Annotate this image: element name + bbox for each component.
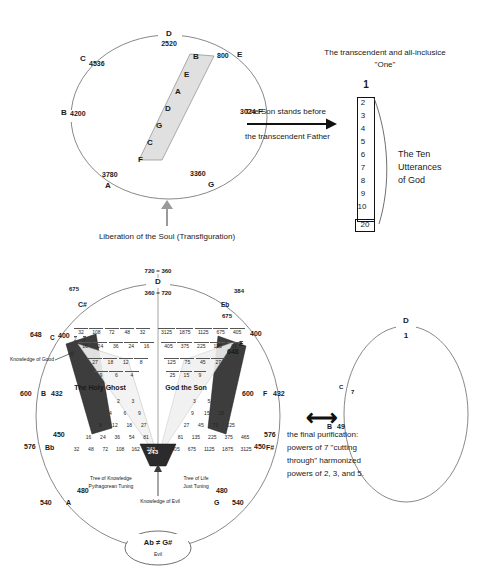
purification-circle: D 1 C 7 B 49 — [330, 318, 480, 508]
utterance-num-3: 3 — [357, 111, 369, 120]
lattice-left-row-4: 9 6 4 — [94, 371, 139, 378]
purification-line-2: powers of 7 "cutting — [287, 444, 357, 453]
utterance-num-10: 10 — [356, 202, 368, 211]
purification-line-1: the final purification: — [287, 431, 358, 440]
utterance-one: 1 — [363, 80, 369, 91]
main-note-B: B — [41, 390, 46, 398]
top-value-A: 3780 — [102, 171, 118, 179]
main-note-Eb: Eb — [221, 301, 229, 308]
lattice-left-int-row-3: 16 24 36 54 81 — [82, 434, 153, 440]
main-outer-A: 540 — [40, 499, 52, 507]
band-note-6: F — [138, 156, 143, 165]
main-note-D: D — [155, 278, 161, 287]
top-value-E: 800 — [217, 52, 229, 60]
main-inner-Eb: 675 — [222, 313, 232, 319]
utterance-num-9: 9 — [357, 189, 369, 198]
top-value-B: 4200 — [70, 110, 86, 118]
transfiguration-circle: D 2520 C 4536 B 4200 3780 A 3360 G 3024 … — [62, 32, 277, 202]
bottom-wedge-value: 243 — [148, 449, 158, 455]
lattice-right-int-row-3: 81 135 225 375 465 — [174, 434, 253, 440]
lattice-right-row-5 — [168, 374, 180, 380]
lattice-left-int-row-0: 2 3 — [112, 398, 139, 404]
main-outer-Eb: 384 — [234, 288, 244, 294]
band-note-1: E — [184, 71, 189, 80]
main-outer-C: 648 — [30, 331, 42, 339]
tree-right-line-2: Just Tuning — [183, 484, 209, 489]
tree-left-line-2: Pythagorean Tuning — [89, 484, 134, 489]
main-circle-svg — [8, 268, 308, 573]
right-note-C: C — [339, 384, 343, 390]
lattice-left-int-row-1: 4 6 9 — [104, 410, 146, 416]
main-inner-Fsharp: 450 — [254, 443, 266, 451]
transition-arrow-shaft — [247, 123, 327, 125]
band-note-5: C — [147, 139, 153, 148]
main-outer-Csharp: 675 — [69, 286, 79, 292]
lattice-right-int-row-2: 27 45 75 125 — [180, 422, 238, 428]
right-value-C: 7 — [351, 389, 354, 395]
top-note-D: D — [166, 30, 172, 39]
main-outer-Fsharp: 576 — [264, 431, 276, 439]
lattice-right-top-row: 3125 1875 1125 675 405 — [158, 328, 245, 335]
utterance-num-20: 20 — [355, 220, 375, 229]
utterances-label-line-2: Utterances — [398, 163, 442, 173]
lattice-left-int-row-2: 8 12 18 27 — [94, 422, 150, 428]
top-note-C: C — [80, 55, 86, 64]
main-note-Fsharp: F# — [266, 444, 274, 452]
top-note-A: A — [105, 182, 111, 191]
tree-right-line-1: Tree of Life — [183, 476, 208, 481]
main-note-C: C — [50, 334, 55, 341]
knowledge-of-evil-label: Knowledge of Evil — [140, 499, 180, 504]
top-value-C: 4536 — [89, 60, 105, 68]
evil-bubble-line-1: Ab ≠ G# — [144, 539, 172, 547]
liberation-caption: Liberation of the Soul (Transfiguration) — [99, 233, 235, 242]
lattice-left-int-row-4: 32 48 72 108 162 243 — [70, 446, 158, 452]
lattice-right-row-3: 125 75 45 27 — [164, 358, 225, 365]
band-note-2: A — [175, 88, 181, 97]
right-circle-svg — [330, 318, 480, 508]
tuning-circle: 720 = 360 D 360 = 720 675 C# 648 C 400 6… — [8, 268, 308, 573]
band-note-0: B — [193, 53, 199, 62]
knowledge-of-good-label: Knowledge of Good — [10, 357, 54, 362]
main-note-Csharp: C# — [78, 301, 87, 309]
utterance-num-7: 7 — [357, 163, 369, 172]
utterances-curve — [373, 97, 395, 225]
god-the-son-label: God the Son — [165, 384, 207, 392]
main-outer-F: 600 — [242, 390, 254, 398]
top-note-G: G — [208, 181, 214, 190]
main-inner-Bb: 450 — [53, 431, 65, 439]
right-value-D: 1 — [404, 332, 408, 341]
purification-line-4: powers of 2, 3, and 5. — [287, 470, 364, 479]
main-inner-F: 432 — [273, 390, 285, 398]
lattice-left-row-2: 16 24 36 24 16 — [78, 342, 154, 349]
liberation-arrow-head — [160, 200, 174, 210]
knowledge-of-good-leader — [54, 350, 76, 362]
main-note-F: F — [263, 390, 267, 398]
evil-bubble-line-2: Evil — [154, 552, 162, 557]
utterance-num-2: 2 — [357, 98, 369, 107]
holy-ghost-label: The Holy Ghost — [74, 384, 126, 392]
top-note-E: E — [237, 51, 242, 60]
tree-left-line-1: Tree of Knowledge — [90, 476, 132, 481]
transition-text-line-2: the transcendent Father — [245, 133, 330, 142]
main-note-G: G — [214, 499, 219, 507]
lattice-right-int-row-4: 405 675 1125 1875 3125 — [168, 446, 255, 452]
transition-arrow-head — [325, 118, 337, 130]
utterances-heading-line-1: The transcendent and all-inclusice — [324, 49, 445, 58]
main-outer-B: 600 — [20, 390, 32, 398]
utterance-num-6: 6 — [357, 150, 369, 159]
lattice-right-int-row-0: 3 5 — [188, 398, 215, 404]
top-value-D: 2520 — [161, 40, 177, 48]
diagram-canvas: D 2520 C 4536 B 4200 3780 A 3360 G 3024 … — [0, 0, 485, 579]
utterances-label-line-1: The Ten — [398, 150, 430, 160]
top-note-B: B — [61, 109, 67, 118]
main-inner-E: 648 — [227, 348, 239, 356]
main-eq-lower: 360 = 720 — [145, 290, 172, 296]
utterance-num-4: 4 — [357, 124, 369, 133]
lattice-left-top-row: 32 108 72 48 32 — [74, 328, 150, 335]
lattice-right-row-2: 405 375 225 135 81 — [161, 342, 242, 349]
main-inner-C: 400 — [58, 332, 70, 340]
main-eq-upper: 720 = 360 — [145, 268, 172, 274]
main-outer-Bb: 576 — [24, 443, 36, 451]
main-note-A: A — [66, 499, 71, 507]
utterances-label-line-3: of God — [398, 176, 425, 186]
